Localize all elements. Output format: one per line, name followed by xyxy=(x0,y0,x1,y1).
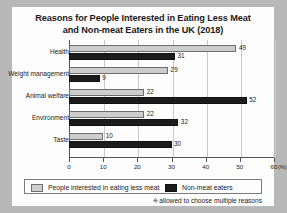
chart-title-line-2: and Non-meat Eaters in the UK (2018) xyxy=(12,25,274,37)
axis-tick xyxy=(103,158,104,162)
bar-light[interactable] xyxy=(69,89,144,96)
bars-container: 2252 xyxy=(69,86,274,108)
bar-value-label: 9 xyxy=(102,74,106,81)
category-label: Animal welfare xyxy=(0,92,69,99)
bar-value-label: 29 xyxy=(171,66,178,73)
category-label: Environment xyxy=(0,114,69,121)
legend-label-dark: Non-meat eaters xyxy=(182,184,233,191)
gridline xyxy=(275,40,276,157)
bar-value-label: 49 xyxy=(239,44,246,51)
axis-tick xyxy=(206,158,207,162)
chart-title: Reasons for People Interested in Eating … xyxy=(12,7,274,36)
bar-value-label: 22 xyxy=(147,88,154,95)
chart-card: Reasons for People Interested in Eating … xyxy=(12,7,274,206)
bar-value-label: 30 xyxy=(174,140,181,147)
bar-value-label: 10 xyxy=(106,132,113,139)
bar-value-label: 52 xyxy=(249,96,256,103)
legend-item-light[interactable]: People interested in eating less meat xyxy=(31,180,159,195)
bar-value-label: 32 xyxy=(181,118,188,125)
bar-dark[interactable] xyxy=(69,119,178,126)
axis-tick xyxy=(240,158,241,162)
bar-row: Weight management299 xyxy=(12,64,274,86)
category-label: Weight management xyxy=(0,70,69,77)
bar-light[interactable] xyxy=(69,133,103,140)
bar-dark[interactable] xyxy=(69,141,172,148)
chart-footnote: ※allowed to choose multiple reasons xyxy=(153,197,262,204)
bar-row: Animal welfare2252 xyxy=(12,86,274,108)
bar-dark[interactable] xyxy=(69,97,247,104)
bar-light[interactable] xyxy=(69,67,168,74)
axis-tick-label: 0 xyxy=(67,163,70,170)
footnote-text: allowed to choose multiple reasons xyxy=(159,197,262,204)
bar-dark[interactable] xyxy=(69,75,100,82)
axis-tick-label: 20 xyxy=(134,163,141,170)
axis-tick-label: 40 xyxy=(202,163,209,170)
plot-area: Health4931Weight management299Animal wel… xyxy=(12,40,274,168)
bar-row: Health4931 xyxy=(12,42,274,64)
category-label: Taste xyxy=(0,136,69,143)
axis-tick-label: 10 xyxy=(100,163,107,170)
bars-container: 299 xyxy=(69,64,274,86)
axis-tick-label: 60 xyxy=(271,163,278,170)
axis-unit-label: (%) xyxy=(278,164,284,170)
bar-dark[interactable] xyxy=(69,53,175,60)
legend-swatch-light-icon xyxy=(31,184,43,192)
bars-container: 1030 xyxy=(69,130,274,152)
axis-tick-label: 50 xyxy=(236,163,243,170)
bar-value-label: 22 xyxy=(147,110,154,117)
chart-legend: People interested in eating less meat No… xyxy=(24,179,262,194)
legend-item-dark[interactable]: Non-meat eaters xyxy=(165,180,233,195)
bar-row: Environment2232 xyxy=(12,108,274,130)
bar-light[interactable] xyxy=(69,111,144,118)
bar-light[interactable] xyxy=(69,45,236,52)
axis-tick xyxy=(137,158,138,162)
legend-swatch-dark-icon xyxy=(165,184,177,192)
axis-tick-label: 30 xyxy=(168,163,175,170)
category-label: Health xyxy=(0,48,69,55)
bars-container: 2232 xyxy=(69,108,274,130)
bar-row: Taste1030 xyxy=(12,130,274,152)
bars-container: 4931 xyxy=(69,42,274,64)
axis-tick xyxy=(172,158,173,162)
legend-label-light: People interested in eating less meat xyxy=(48,184,159,191)
axis-tick xyxy=(274,158,275,162)
axis-tick xyxy=(69,158,70,162)
chart-title-line-1: Reasons for People Interested in Eating … xyxy=(12,13,274,25)
bar-value-label: 31 xyxy=(177,52,184,59)
asterisk-icon: ※ xyxy=(153,197,158,204)
